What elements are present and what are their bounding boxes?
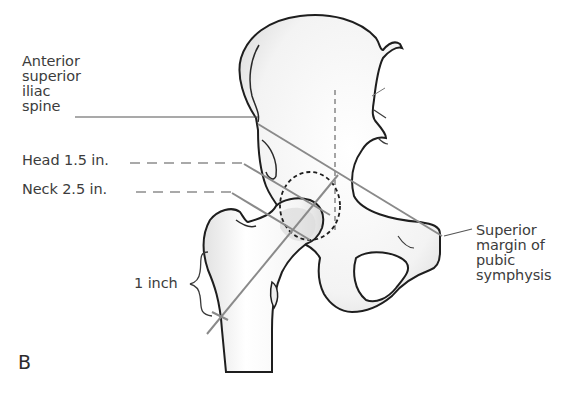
femur-bone [204, 198, 324, 372]
label-anterior-superior-iliac-spine: Anterior superior iliac spine [22, 54, 81, 114]
hip-anatomy-figure: Anterior superior iliac spine Head 1.5 i… [0, 0, 577, 400]
panel-letter: B [18, 352, 31, 372]
pelvis-femur-illustration [0, 0, 577, 400]
label-one-inch: 1 inch [134, 276, 178, 291]
label-femoral-head: Head 1.5 in. [22, 153, 109, 168]
label-femoral-neck: Neck 2.5 in. [22, 182, 107, 197]
label-superior-margin-pubic-symphysis: Superior margin of pubic symphysis [476, 223, 551, 283]
